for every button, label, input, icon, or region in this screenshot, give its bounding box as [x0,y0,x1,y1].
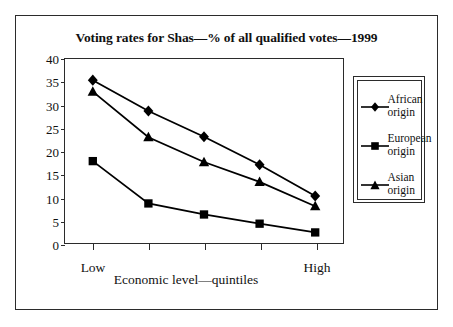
data-point-marker [88,75,98,86]
data-point-marker [143,105,153,116]
legend-label-line1: Asian [388,171,415,185]
y-axis-tick-mark [61,129,65,130]
data-point-marker [88,86,98,95]
y-axis-tick-label: 25 [46,122,59,135]
plot-canvas [65,59,343,243]
x-axis-tick-mark [149,243,150,250]
y-axis-tick-label: 30 [46,99,59,112]
data-point-marker [89,157,97,165]
legend-label-line1: European [388,132,432,146]
series-european-origin [89,157,320,237]
legend-item-african-origin[interactable]: African origin [358,90,421,124]
y-axis-tick-mark [61,175,65,176]
data-point-marker [144,199,152,207]
y-axis-tick-mark [61,106,65,107]
data-point-marker [311,228,319,236]
y-axis-tick-label: 10 [46,192,59,205]
series-african-origin [88,75,320,202]
series-line [93,92,315,207]
y-axis-tick-label: 20 [46,146,59,159]
legend-inner-frame: African origin European origin [357,80,422,200]
y-axis-tick-label: 35 [46,76,59,89]
data-point-marker [310,201,320,210]
chart-title: Voting rates for Shas—% of all qualified… [16,30,437,46]
data-point-marker [199,131,209,142]
legend-label-line2: origin [388,146,432,160]
legend-label-asian-origin: Asian origin [388,171,415,198]
plot-area: 0510152025303540LowHigh [64,58,344,244]
diamond-marker-icon [360,100,390,114]
triangle-marker-icon [360,178,390,192]
legend-label-european-origin: European origin [388,132,432,159]
square-marker-icon [360,139,390,153]
data-point-marker [200,210,208,218]
data-point-marker [199,157,209,166]
y-axis-tick-label: 15 [46,169,59,182]
y-axis-tick-mark [61,245,65,246]
legend-item-european-origin[interactable]: European origin [358,129,421,163]
y-axis-tick-mark [61,199,65,200]
data-point-marker [255,159,265,170]
series-asian-origin [88,86,321,210]
x-axis-tick-mark [261,243,262,250]
legend-label-line2: origin [388,107,423,121]
legend-box: African origin European origin [353,76,425,203]
data-point-marker [255,220,263,228]
series-line [93,161,315,232]
x-axis-tick-mark [205,243,206,250]
y-axis-tick-label: 40 [46,53,59,66]
y-axis-tick-label: 0 [53,239,60,252]
y-axis-tick-label: 5 [53,215,60,228]
figure-frame: Voting rates for Shas—% of all qualified… [15,15,438,310]
x-axis-title: Economic level—quintiles [16,272,356,288]
legend-label-line2: origin [388,185,415,199]
x-axis-tick-mark [317,243,318,250]
legend-label-line1: African [388,93,423,107]
y-axis-tick-mark [61,59,65,60]
legend-label-african-origin: African origin [388,93,423,120]
y-axis-tick-mark [61,222,65,223]
y-axis-tick-mark [61,82,65,83]
x-axis-tick-mark [93,243,94,250]
y-axis-tick-mark [61,152,65,153]
legend-item-asian-origin[interactable]: Asian origin [358,168,421,202]
data-point-marker [310,191,320,202]
